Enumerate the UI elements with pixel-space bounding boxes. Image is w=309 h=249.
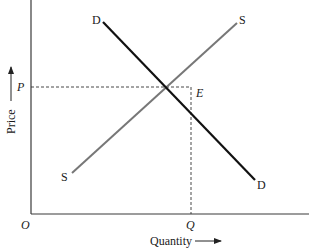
x-axis-title: Quantity <box>150 234 192 248</box>
supply-demand-diagram: D S S D E P Q O Quantity Price <box>0 0 309 249</box>
demand-label-top: D <box>92 13 101 27</box>
equilibrium-point-label: E <box>195 86 204 100</box>
price-level-label: P <box>16 80 25 94</box>
supply-label-top: S <box>239 13 246 27</box>
supply-label-bottom: S <box>61 170 68 184</box>
quantity-level-label: Q <box>186 218 195 232</box>
supply-curve <box>72 23 237 173</box>
demand-label-bottom: D <box>257 178 266 192</box>
demand-curve <box>103 22 255 180</box>
origin-label: O <box>21 218 30 232</box>
y-axis-title: Price <box>4 109 18 134</box>
